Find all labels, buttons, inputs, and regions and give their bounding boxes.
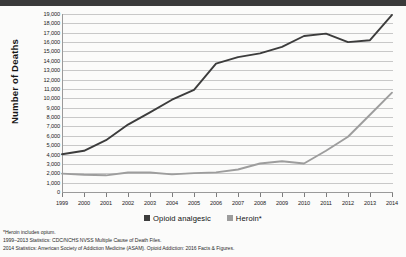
x-axis-tick — [370, 193, 371, 197]
y-axis-tick-label: 18,000 — [20, 20, 60, 26]
legend-swatch-icon — [227, 215, 233, 221]
series-line-opioid-analgesic — [62, 15, 392, 154]
x-axis-tick — [392, 193, 393, 197]
x-axis-tick — [172, 193, 173, 197]
x-axis-ticks — [62, 193, 393, 198]
legend-label: Opioid analgesic — [153, 214, 211, 223]
series-line-heroin — [62, 93, 392, 176]
footnote-line: 2014 Statistics: American Society of Add… — [3, 244, 403, 252]
y-axis-tick-label: 17,000 — [20, 30, 60, 36]
x-axis-tick — [216, 193, 217, 197]
line-chart: Number of Deaths 01,0002,0003,0004,0005,… — [0, 6, 406, 210]
x-axis-tick — [282, 193, 283, 197]
y-axis-tick-label: 9,000 — [20, 105, 60, 111]
x-axis-tick — [304, 193, 305, 197]
legend-item[interactable]: Heroin* — [227, 214, 262, 223]
y-axis-tick-label: 1,000 — [20, 180, 60, 186]
y-axis-tick-label: 7,000 — [20, 123, 60, 129]
series-lines — [62, 14, 392, 192]
y-axis-tick-labels: 01,0002,0003,0004,0005,0006,0007,0008,00… — [18, 14, 60, 192]
y-axis-tick-label: 0 — [20, 189, 60, 195]
chart-legend: Opioid analgesicHeroin* — [0, 212, 406, 224]
x-axis-tick — [128, 193, 129, 197]
y-axis-tick-label: 12,000 — [20, 77, 60, 83]
footnote-line: *Heroin includes opium. — [3, 228, 403, 236]
y-axis-tick-label: 8,000 — [20, 114, 60, 120]
y-axis-tick-label: 5,000 — [20, 142, 60, 148]
x-axis-tick — [326, 193, 327, 197]
y-axis-tick-label: 14,000 — [20, 58, 60, 64]
x-axis-tick — [260, 193, 261, 197]
x-axis-tick-labels: 1999200020012002200320042005200620072008… — [62, 200, 393, 209]
legend-label: Heroin* — [236, 214, 262, 223]
footnote-line: 1999–2013 Statistics: CDC/NCHS NVSS Mult… — [3, 236, 403, 244]
x-axis-tick — [194, 193, 195, 197]
y-axis-tick-label: 11,000 — [20, 86, 60, 92]
x-axis-tick-label: 2014 — [378, 200, 406, 206]
y-axis-tick-label: 15,000 — [20, 48, 60, 54]
legend-swatch-icon — [144, 215, 150, 221]
footnotes-block: *Heroin includes opium.1999–2013 Statist… — [3, 228, 403, 253]
y-axis-tick-label: 2,000 — [20, 170, 60, 176]
x-axis-tick — [106, 193, 107, 197]
x-axis-tick — [150, 193, 151, 197]
y-axis-tick-label: 4,000 — [20, 152, 60, 158]
x-axis-tick — [238, 193, 239, 197]
x-axis-tick — [62, 193, 63, 197]
x-axis-tick — [84, 193, 85, 197]
y-axis-tick-label: 6,000 — [20, 133, 60, 139]
y-axis-tick-label: 3,000 — [20, 161, 60, 167]
y-axis-tick-label: 16,000 — [20, 39, 60, 45]
legend-item[interactable]: Opioid analgesic — [144, 214, 211, 223]
x-axis-tick — [348, 193, 349, 197]
y-axis-tick-label: 13,000 — [20, 67, 60, 73]
y-axis-tick-label: 19,000 — [20, 11, 60, 17]
y-axis-tick-label: 10,000 — [20, 95, 60, 101]
